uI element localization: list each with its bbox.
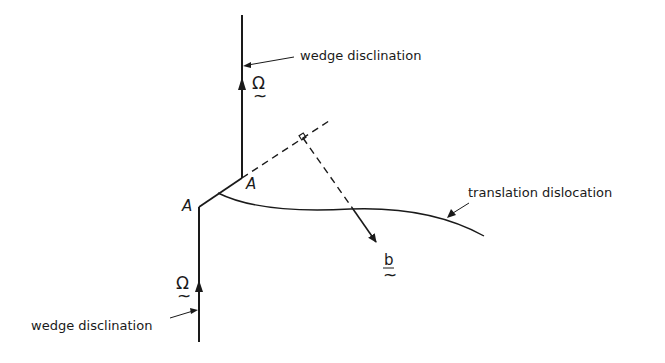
- dashed-extension: [242, 119, 332, 178]
- burgers-tilde: ~: [383, 265, 397, 285]
- leader-top-arrow-icon: [243, 62, 251, 68]
- leader-translation-arrow-icon: [447, 209, 456, 218]
- omega-bottom-tilde: ~: [177, 286, 191, 306]
- lower-omega-arrow-icon: [195, 280, 203, 292]
- leader-bottom-arrow-icon: [190, 308, 198, 314]
- translation-dislocation-curve: [218, 193, 484, 236]
- leader-bottom: [170, 311, 193, 318]
- upper-omega-arrow-icon: [238, 77, 246, 90]
- leader-top: [248, 57, 294, 65]
- point-a-right: A: [245, 175, 256, 193]
- right-angle-marker: [299, 133, 306, 140]
- dashed-perpendicular: [303, 138, 353, 209]
- label-wedge-bottom: wedge disclination: [31, 318, 152, 333]
- leader-translation: [453, 203, 469, 213]
- disclination-diagram: wedge disclination wedge disclination tr…: [0, 0, 665, 363]
- label-translation: translation dislocation: [468, 185, 612, 200]
- point-a-left: A: [181, 197, 192, 215]
- burgers-vector-arrow: [353, 209, 376, 242]
- label-wedge-top: wedge disclination: [300, 48, 421, 63]
- kink-segment: [199, 178, 242, 207]
- omega-top-tilde: ~: [253, 86, 267, 106]
